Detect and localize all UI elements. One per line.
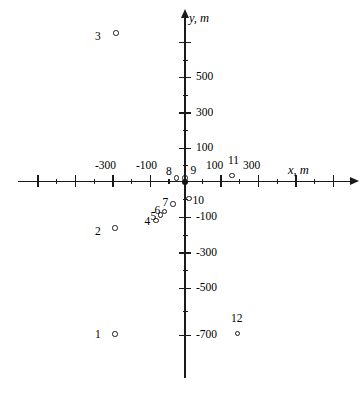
data-point-label: 8 bbox=[166, 166, 172, 178]
y-axis-arrowhead bbox=[181, 9, 189, 18]
x-tick-label: 300 bbox=[243, 160, 260, 172]
y-axis-tick-minor bbox=[183, 130, 188, 131]
data-point-label: 10 bbox=[193, 195, 205, 207]
y-tick-label: -700 bbox=[196, 329, 217, 341]
y-axis-tick-major bbox=[179, 77, 191, 78]
x-axis-tick-major bbox=[220, 175, 221, 187]
data-point-marker[interactable] bbox=[112, 225, 118, 231]
x-tick-label: -100 bbox=[136, 160, 157, 172]
x-axis-tick-minor bbox=[75, 175, 76, 187]
data-point-label: 6 bbox=[155, 205, 161, 217]
x-axis-tick-minor bbox=[37, 175, 38, 187]
data-point-marker[interactable] bbox=[162, 209, 168, 215]
x-axis-tick-minor bbox=[277, 179, 278, 184]
y-axis-tick-major bbox=[179, 335, 191, 336]
x-axis-tick-minor bbox=[94, 179, 95, 184]
y-axis-tick-minor bbox=[183, 235, 188, 236]
y-tick-label: -100 bbox=[196, 211, 217, 223]
data-point-label: 4 bbox=[145, 216, 151, 228]
y-tick-label: -300 bbox=[196, 247, 217, 259]
y-axis-tick-minor bbox=[183, 60, 188, 61]
y-tick-label: 500 bbox=[196, 71, 213, 83]
y-axis-tick-minor bbox=[183, 270, 188, 271]
data-point-label: 11 bbox=[228, 155, 239, 167]
y-tick-label: -500 bbox=[196, 282, 217, 294]
x-axis-tick-major bbox=[112, 175, 113, 187]
data-point-marker[interactable] bbox=[170, 201, 176, 207]
y-axis-title: y, m bbox=[189, 12, 209, 25]
x-axis-tick-major bbox=[333, 175, 334, 187]
data-point-marker[interactable] bbox=[229, 173, 235, 179]
y-axis-tick-major bbox=[179, 288, 191, 289]
x-axis-tick-minor bbox=[168, 179, 169, 184]
y-axis-tick-major bbox=[179, 252, 191, 253]
data-point-marker[interactable] bbox=[112, 331, 118, 337]
scatter-plot-figure: -300 -100 100 300 500 300 100 -100 -300 … bbox=[0, 0, 364, 396]
y-axis-tick-major bbox=[179, 42, 191, 43]
y-axis-tick-major bbox=[179, 217, 191, 218]
x-axis-tick-minor bbox=[239, 179, 240, 184]
y-tick-label: 300 bbox=[196, 107, 213, 119]
y-axis-tick-minor bbox=[183, 311, 188, 312]
data-point-label: 1 bbox=[95, 329, 101, 341]
x-axis-arrowhead bbox=[350, 177, 359, 185]
data-point-marker[interactable] bbox=[182, 175, 188, 181]
data-point-marker[interactable] bbox=[186, 196, 192, 202]
y-axis-tick-minor bbox=[183, 95, 188, 96]
y-axis-tick-minor bbox=[183, 165, 188, 166]
data-point-label: 3 bbox=[95, 31, 101, 43]
y-tick-label: 100 bbox=[196, 142, 213, 154]
y-axis-tick-major bbox=[179, 112, 191, 113]
data-point-marker[interactable] bbox=[235, 331, 241, 337]
x-axis-tick-minor bbox=[131, 179, 132, 184]
x-axis-tick-major bbox=[258, 175, 259, 187]
x-tick-label: 100 bbox=[206, 160, 223, 172]
x-axis-tick-minor bbox=[56, 179, 57, 184]
data-point-marker[interactable] bbox=[113, 30, 119, 36]
data-point-label: 9 bbox=[191, 165, 197, 177]
x-axis-tick-major bbox=[150, 175, 151, 187]
data-point-marker[interactable] bbox=[174, 175, 180, 181]
x-axis-tick-minor bbox=[202, 179, 203, 184]
x-tick-label: -300 bbox=[95, 160, 116, 172]
data-point-label: 7 bbox=[163, 197, 169, 209]
x-axis-title: x, m bbox=[288, 164, 309, 177]
y-axis-tick-major bbox=[179, 148, 191, 149]
data-point-label: 12 bbox=[231, 313, 243, 325]
data-point-label: 2 bbox=[95, 226, 101, 238]
x-axis-tick-minor bbox=[314, 179, 315, 184]
